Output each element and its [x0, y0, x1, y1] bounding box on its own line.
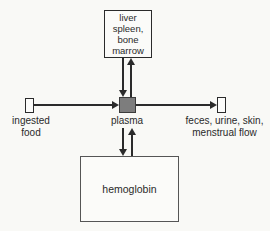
- excretion-label: feces, urine, skin, menstrual flow: [179, 115, 270, 138]
- node-excretion-box: [217, 97, 226, 113]
- arrow-shaft: [34, 104, 113, 106]
- arrow-head-down-icon: [119, 149, 127, 156]
- node-liver-spleen-bone-marrow: liver spleen, bone marrow: [104, 10, 152, 58]
- arrow-shaft: [122, 128, 124, 150]
- arrow-shaft: [131, 134, 133, 156]
- ingested-food-label: ingested food: [0, 115, 62, 138]
- arrow-shaft: [130, 64, 132, 97]
- arrow-shaft: [122, 58, 124, 91]
- node-plasma-square: [119, 97, 136, 113]
- arrow-head-right-icon: [112, 101, 119, 109]
- arrow-head-up-icon: [127, 58, 135, 65]
- arrow-shaft: [136, 104, 211, 106]
- plasma-label: plasma: [101, 115, 153, 127]
- arrow-head-right-icon: [210, 101, 217, 109]
- arrow-head-down-icon: [119, 90, 127, 97]
- node-ingested-food-box: [25, 98, 34, 113]
- iron-metabolism-diagram: liver spleen, bone marrow plasma ingeste…: [0, 0, 270, 231]
- arrow-head-up-icon: [128, 128, 136, 135]
- node-hemoglobin: hemoglobin: [80, 156, 179, 222]
